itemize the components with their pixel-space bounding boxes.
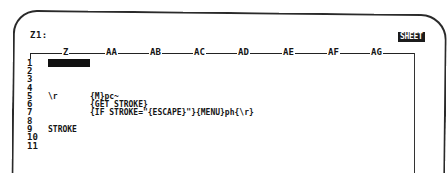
cell-aa7[interactable]: {IF STROKE="{ESCAPE}"}{MENU}ph{\r}	[90, 108, 254, 117]
column-header-ac[interactable]: AC	[193, 47, 206, 58]
column-header-ae[interactable]: AE	[282, 47, 295, 58]
worksheet-right-border	[414, 53, 415, 173]
column-header-af[interactable]: AF	[327, 47, 340, 58]
column-header-aa[interactable]: AA	[105, 47, 118, 58]
cell-z5[interactable]: \r	[48, 92, 58, 101]
column-header-ag[interactable]: AG	[370, 47, 383, 58]
crt-screen-bezel	[11, 10, 447, 173]
column-header-border	[30, 53, 415, 54]
column-header-ad[interactable]: AD	[237, 47, 250, 58]
cell-z9[interactable]: STROKE	[48, 125, 77, 134]
cell-address: Z1:	[30, 30, 48, 40]
mode-indicator: SHEET	[398, 32, 425, 42]
cell-pointer-z1[interactable]	[48, 59, 90, 67]
column-header-ab[interactable]: AB	[149, 47, 162, 58]
column-header-z[interactable]: Z	[62, 47, 69, 58]
row-number[interactable]: 11	[27, 142, 38, 151]
